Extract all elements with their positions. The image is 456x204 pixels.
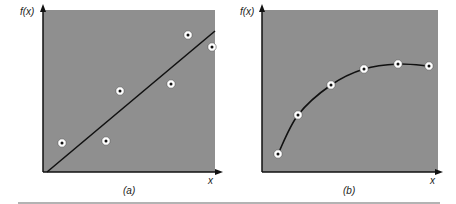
panel-a-ylabel: f(x) [20, 6, 34, 17]
data-point-dot [61, 142, 64, 145]
data-point-dot [119, 90, 122, 93]
data-point-dot [277, 153, 280, 156]
panel-b: f(x) x (b) [240, 4, 443, 196]
panel-a: f(x) x (a) [20, 4, 223, 196]
data-point-dot [187, 34, 190, 37]
panel-b-background [262, 10, 438, 172]
data-point-dot [105, 140, 108, 143]
data-point-dot [428, 65, 431, 68]
panel-a-x-arrow-icon [215, 169, 223, 175]
data-point-dot [211, 46, 214, 49]
panel-a-caption: (a) [123, 185, 135, 196]
panel-b-x-arrow-icon [435, 169, 443, 175]
data-point-dot [330, 84, 333, 87]
panel-b-y-arrow-icon [259, 4, 265, 12]
data-point-dot [397, 63, 400, 66]
panel-b-ylabel: f(x) [240, 6, 254, 17]
panel-a-xlabel: x [207, 175, 214, 186]
panel-a-y-arrow-icon [40, 4, 46, 12]
figure: f(x) x (a) f(x) x (b) [0, 0, 456, 204]
data-point-dot [170, 83, 173, 86]
panel-b-caption: (b) [343, 185, 355, 196]
data-point-dot [363, 68, 366, 71]
panel-b-xlabel: x [429, 175, 436, 186]
data-point-dot [297, 114, 300, 117]
